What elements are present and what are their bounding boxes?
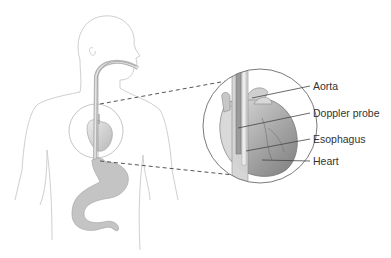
stomach	[72, 158, 128, 231]
label-doppler-probe: Doppler probe	[313, 107, 380, 119]
enlarged-heart	[200, 66, 320, 191]
label-esophagus: Esophagus	[313, 133, 366, 145]
small-heart-icon	[87, 112, 112, 151]
label-aorta: Aorta	[313, 80, 338, 92]
esophageal-doppler-diagram	[0, 0, 391, 258]
label-heart: Heart	[313, 155, 339, 167]
